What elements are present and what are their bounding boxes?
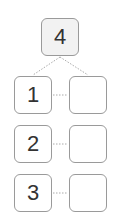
left-box-1-label: 1: [27, 82, 39, 108]
top-box-label: 4: [54, 24, 66, 50]
top-box: 4: [41, 18, 79, 56]
left-box-3-label: 3: [27, 180, 39, 206]
right-box-3[interactable]: [69, 174, 107, 212]
left-box-1: 1: [14, 76, 52, 114]
right-box-1[interactable]: [69, 76, 107, 114]
left-box-2-label: 2: [27, 131, 39, 157]
left-box-2: 2: [14, 125, 52, 163]
left-box-3: 3: [14, 174, 52, 212]
right-box-2[interactable]: [69, 125, 107, 163]
